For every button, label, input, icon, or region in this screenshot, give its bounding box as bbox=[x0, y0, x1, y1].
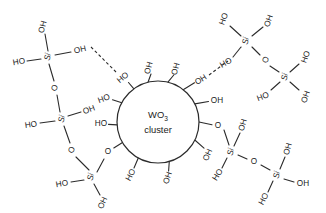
bond-si-bl-o-upright bbox=[97, 159, 104, 172]
bond-si-bl-o-upleft bbox=[76, 157, 89, 170]
silanol-group-top-right: Si HO OH HO O bbox=[217, 12, 275, 70]
si-bri-sub-ho-bottom: HO bbox=[211, 167, 225, 182]
bond-si-tr-ho-upleft bbox=[230, 26, 241, 36]
bond-si-tl-oh-top bbox=[45, 34, 48, 51]
si-atom-top-right: Si bbox=[240, 35, 252, 45]
bond-si-tr-ho-downleft bbox=[233, 47, 241, 57]
si-atom-mid-left: Si bbox=[56, 113, 68, 123]
chemical-structure-figure: WO3 cluster OH OH HO OH HO OH HO O O OH … bbox=[0, 0, 326, 213]
bond-siloxane-bridge-top-right bbox=[270, 66, 279, 72]
cluster-group-oh-4: OH bbox=[193, 73, 208, 87]
radial-bond-10 bbox=[195, 140, 204, 148]
bond-si-bri-o-right bbox=[238, 155, 247, 159]
bond-si-ml-oh-right bbox=[68, 112, 81, 116]
bond-siloxane-bridge-bottom-right bbox=[261, 165, 270, 170]
si-bro-sub-ho-bottom: HO bbox=[257, 191, 271, 206]
bond-si-tr-oh-upright bbox=[252, 27, 263, 36]
hydrogen-bonds bbox=[91, 47, 228, 75]
si-tr-sub-oh-upright: OH bbox=[262, 13, 275, 28]
si-bl-sub-ho-left: HO bbox=[55, 178, 69, 189]
structure-canvas: WO3 cluster OH OH HO OH HO OH HO O O OH … bbox=[0, 0, 326, 213]
bond-si-fr-ho-upright bbox=[290, 64, 299, 72]
bond-si-ml-ho-left bbox=[40, 121, 55, 123]
bond-si-ml-o-top bbox=[57, 95, 60, 112]
cluster-group-oh-2: OH bbox=[170, 62, 182, 76]
si-atom-bottom-right-inner: Si bbox=[225, 146, 237, 156]
cluster-group-oh-12: OH bbox=[161, 170, 174, 185]
si-bri-sub-oh-top: OH bbox=[237, 118, 249, 132]
cluster-group-ho-7: HO bbox=[95, 119, 107, 128]
si-tr-sub-ho-upleft: HO bbox=[217, 12, 230, 27]
radial-bond-3 bbox=[129, 83, 134, 89]
si-tl-sub-oh-right: OH bbox=[73, 44, 87, 55]
radial-bond-8 bbox=[199, 122, 212, 125]
si-fr-sub-ho-upright: HO bbox=[299, 50, 312, 65]
cluster-group-oh-1: OH bbox=[143, 61, 155, 75]
cluster-group-oh-10: OH bbox=[201, 147, 214, 162]
bond-si-fr-ho-downleft bbox=[271, 82, 280, 90]
wo3-cluster-circle bbox=[117, 81, 199, 163]
radial-bond-6 bbox=[195, 102, 209, 104]
si-bro-sub-oh-top: OH bbox=[282, 142, 294, 156]
si-tr-sub-o-downright: O bbox=[260, 55, 271, 64]
si-ml-sub-o-bottom: O bbox=[66, 145, 77, 154]
radial-bond-4 bbox=[183, 83, 194, 90]
bond-si-bl-oh-bottom bbox=[94, 184, 100, 195]
bond-si-tl-o-bottom bbox=[49, 64, 54, 81]
cluster-group-o-9: O bbox=[105, 147, 111, 156]
bond-si-bro-oh-top bbox=[280, 157, 285, 169]
si-bl-sub-oh-bottom: OH bbox=[96, 195, 109, 210]
bond-si-ml-o-bottom bbox=[64, 126, 70, 143]
cluster-label-text: cluster bbox=[144, 124, 172, 135]
radial-bond-12 bbox=[169, 161, 170, 171]
si-tl-sub-ho-left: HO bbox=[12, 56, 26, 67]
radial-bond-11 bbox=[134, 157, 139, 168]
si-tl-sub-o-bottom: O bbox=[49, 83, 60, 92]
bond-si-bl-ho-left bbox=[71, 180, 84, 182]
bond-si-bri-ho-bottom bbox=[222, 158, 227, 168]
radial-bond-9 bbox=[114, 143, 123, 149]
si-atom-bottom-right-outer: Si bbox=[271, 169, 283, 179]
cluster-group-ho-5: HO bbox=[97, 92, 112, 105]
radial-bond-2 bbox=[168, 75, 174, 82]
si-atom-bottom-left: Si bbox=[85, 171, 97, 181]
radial-bond-5 bbox=[113, 100, 122, 103]
silanol-group-top-left: Si OH HO OH O bbox=[12, 20, 87, 93]
si-ml-sub-oh-right: OH bbox=[82, 103, 97, 116]
si-fr-sub-oh-downright: OH bbox=[299, 89, 312, 104]
si-tr-sub-ho-downleft: HO bbox=[218, 56, 233, 70]
bond-si-tr-o-downright bbox=[252, 47, 260, 55]
silanol-group-bottom-right-outer: Si OH HO OH bbox=[257, 142, 309, 207]
si-atom-top-left: Si bbox=[42, 51, 54, 61]
si-bro-sub-oh-right: OH bbox=[297, 179, 309, 188]
bond-si-bro-ho-bottom bbox=[268, 181, 273, 192]
hbond-left bbox=[91, 47, 116, 72]
bond-si-bri-oh-top bbox=[234, 133, 240, 146]
cluster-group-ho-11: HO bbox=[124, 167, 138, 182]
silanol-group-mid-left: Si OH HO O bbox=[24, 95, 96, 154]
bond-si-bro-oh-right bbox=[284, 179, 294, 182]
si-bri-sub-o-right: O bbox=[251, 157, 257, 166]
si-ml-sub-ho-left: HO bbox=[24, 119, 37, 130]
si-atom-far-right: Si bbox=[279, 71, 291, 81]
bond-si-tl-oh-right bbox=[55, 52, 71, 55]
bond-cluster-o-to-si-br bbox=[224, 130, 229, 145]
bond-si-fr-oh-downright bbox=[290, 82, 299, 90]
cluster-group-oh-6: OH bbox=[211, 96, 223, 105]
radial-bond-7 bbox=[109, 124, 118, 125]
cluster-group-ho-3: HO bbox=[115, 70, 130, 85]
si-fr-sub-ho-downleft: HO bbox=[256, 90, 271, 103]
cluster-group-o-8: O bbox=[215, 121, 221, 130]
bond-si-tl-ho-left bbox=[27, 59, 41, 61]
si-tl-sub-oh-top: OH bbox=[37, 20, 49, 34]
silanol-group-bottom-left: Si HO OH bbox=[55, 157, 109, 210]
